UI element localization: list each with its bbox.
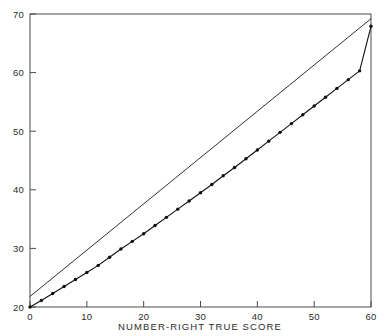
series-marker bbox=[233, 166, 236, 169]
series-marker bbox=[142, 232, 145, 235]
series-marker bbox=[62, 285, 65, 288]
series-marker bbox=[222, 174, 225, 177]
series-marker bbox=[358, 69, 361, 72]
series-marker bbox=[28, 305, 31, 308]
series-marker bbox=[199, 191, 202, 194]
series-marker bbox=[301, 113, 304, 116]
series-marker bbox=[290, 122, 293, 125]
y-tick-label: 70 bbox=[13, 9, 24, 20]
series-marker bbox=[153, 224, 156, 227]
chart-figure: 203040506070 0102030405060 NUMBER-RIGHT … bbox=[0, 0, 386, 336]
series-marker bbox=[85, 271, 88, 274]
series-marker bbox=[176, 207, 179, 210]
series-marker bbox=[335, 87, 338, 90]
y-tick-label: 30 bbox=[13, 243, 24, 254]
series-marker bbox=[119, 247, 122, 250]
x-tick-label: 10 bbox=[81, 311, 92, 322]
x-axis-title: NUMBER-RIGHT TRUE SCORE bbox=[118, 321, 282, 332]
series-marker bbox=[40, 299, 43, 302]
series-marker bbox=[256, 148, 259, 151]
chart-plot-area: 203040506070 0102030405060 NUMBER-RIGHT … bbox=[0, 0, 386, 336]
series-marker bbox=[312, 104, 315, 107]
y-tick-label: 50 bbox=[13, 126, 24, 137]
series-marker bbox=[165, 216, 168, 219]
series-marker bbox=[244, 157, 247, 160]
series-marker bbox=[74, 278, 77, 281]
x-tick-label: 50 bbox=[309, 311, 320, 322]
series-marker bbox=[210, 183, 213, 186]
series-marker bbox=[97, 264, 100, 267]
series-marker bbox=[51, 292, 54, 295]
series-marker bbox=[187, 199, 190, 202]
series-marker bbox=[369, 25, 372, 28]
series-marker bbox=[131, 240, 134, 243]
series-marker bbox=[278, 131, 281, 134]
series-marker bbox=[347, 78, 350, 81]
y-tick-label: 40 bbox=[13, 184, 24, 195]
series-marker bbox=[108, 255, 111, 258]
y-tick-label: 20 bbox=[13, 302, 24, 313]
plot-frame bbox=[30, 14, 371, 307]
y-tick-label: 60 bbox=[13, 67, 24, 78]
x-tick-label: 60 bbox=[366, 311, 377, 322]
series-marker bbox=[324, 96, 327, 99]
x-tick-label: 0 bbox=[27, 311, 32, 322]
series-marker bbox=[267, 139, 270, 142]
